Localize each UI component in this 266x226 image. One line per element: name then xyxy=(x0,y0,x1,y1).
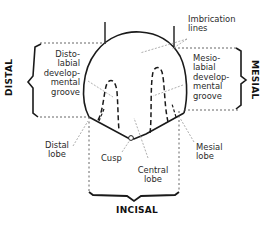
label-mesiolabial-groove: Mesio- labial develop- mental groove xyxy=(193,54,229,101)
label-line: lobe xyxy=(136,175,170,184)
tooth-diagram xyxy=(0,0,266,226)
cusp-tip xyxy=(129,136,134,141)
leader-mesiolabial xyxy=(153,85,183,96)
leader-distolabial xyxy=(88,81,113,97)
label-central-lobe: Central lobe xyxy=(136,166,170,185)
incisal-edge xyxy=(89,113,184,139)
mesial-side-label: MESIAL xyxy=(250,60,260,99)
label-cusp: Cusp xyxy=(101,154,122,163)
distolabial-groove-line xyxy=(98,80,119,130)
label-line: lobe xyxy=(196,152,223,161)
label-line: lobe xyxy=(40,150,74,159)
crown-outline xyxy=(84,32,187,117)
leader-imbrication-1 xyxy=(140,39,187,53)
label-line: lines xyxy=(188,24,236,33)
mesial-brace xyxy=(236,48,246,109)
label-line: groove xyxy=(40,88,80,97)
incisal-brace xyxy=(89,192,179,201)
distal-side-label: DISTAL xyxy=(4,59,14,96)
leader-mesial-lobe xyxy=(180,118,194,142)
leader-distal-lobe xyxy=(73,121,88,146)
label-distolabial-groove: Disto- labial develop- mental groove xyxy=(40,50,80,97)
label-mesial-lobe: Mesial lobe xyxy=(196,143,223,162)
label-line: Cusp xyxy=(101,154,122,163)
label-line: groove xyxy=(193,92,229,101)
label-distal-lobe: Distal lobe xyxy=(40,141,74,160)
leader-cusp xyxy=(122,140,130,152)
label-imbrication-lines: Imbrication lines xyxy=(188,15,236,34)
groove-end-tick xyxy=(172,104,176,117)
incisal-side-label: INCISAL xyxy=(116,205,158,215)
